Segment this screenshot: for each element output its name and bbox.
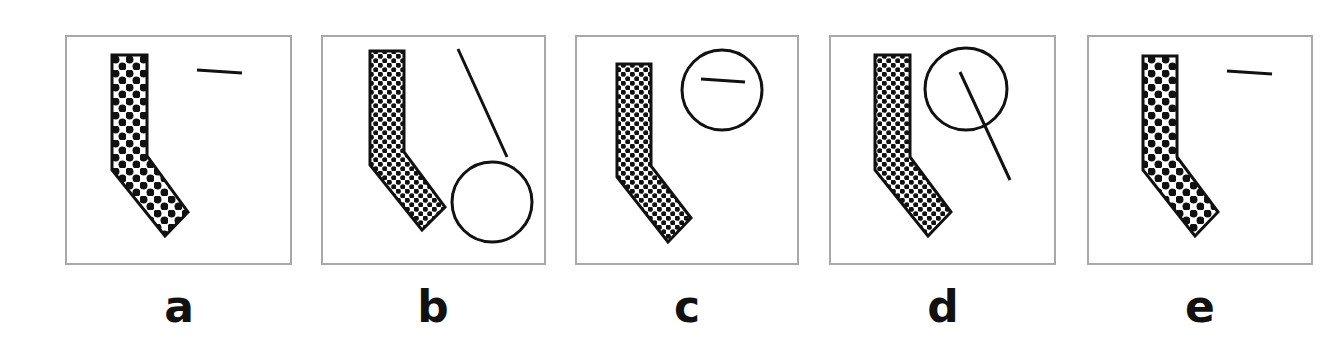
circle-shape (925, 48, 1007, 130)
option-panel-e (1088, 36, 1312, 264)
dotted-l-shape (112, 55, 188, 236)
circle-shape (452, 162, 532, 242)
line-segment (458, 49, 507, 157)
dotted-l-shape (617, 64, 691, 242)
dotted-l-shape (370, 51, 445, 230)
option-panel-b (322, 36, 545, 264)
circle-shape (682, 50, 762, 130)
option-panel-c (576, 36, 798, 264)
line-segment (1227, 71, 1272, 74)
panel-frame (322, 36, 545, 264)
option-label-b: b (383, 282, 483, 332)
option-label-d: d (893, 282, 993, 332)
panel-frame (830, 36, 1055, 264)
line-segment (701, 79, 745, 82)
panel-frame (66, 36, 291, 264)
option-label-c: c (637, 282, 737, 332)
dotted-l-shape (875, 55, 951, 236)
option-panel-d (830, 36, 1055, 264)
option-label-e: e (1150, 282, 1250, 332)
line-segment (960, 72, 1010, 180)
option-panel-a (66, 36, 291, 264)
line-segment (197, 70, 242, 73)
dotted-l-shape (1143, 56, 1218, 236)
option-label-a: a (129, 282, 229, 332)
